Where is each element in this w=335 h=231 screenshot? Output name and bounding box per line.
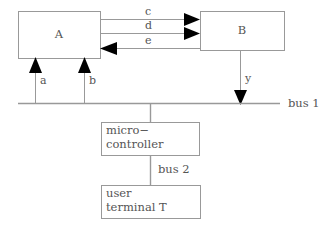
block-user-terminal-label-line1: user <box>106 187 132 199</box>
block-user-terminal-label-line2: terminal T <box>106 201 167 213</box>
signal-a-label: a <box>40 75 47 87</box>
signal-d-arrowhead <box>184 27 200 40</box>
signal-c-label: c <box>145 6 151 18</box>
bus-2-label: bus 2 <box>158 163 190 175</box>
signal-b-arrowhead <box>78 57 91 73</box>
signal-e-arrowhead <box>100 42 117 55</box>
signal-e-label: e <box>145 35 152 47</box>
signal-y-label: y <box>245 73 251 85</box>
diagram-canvas: A B micro− controller user terminal T c … <box>0 0 335 231</box>
signal-b-label: b <box>89 75 96 87</box>
signal-d-label: d <box>145 20 152 32</box>
block-a-label: A <box>18 28 100 40</box>
block-microcontroller-label-line2: controller <box>106 138 163 150</box>
bus-1-label: bus 1 <box>288 97 320 109</box>
signal-c-arrowhead <box>184 13 200 26</box>
signal-a-arrowhead <box>29 57 42 73</box>
block-microcontroller-label-line1: micro− <box>106 124 149 136</box>
block-b-label: B <box>200 24 284 36</box>
